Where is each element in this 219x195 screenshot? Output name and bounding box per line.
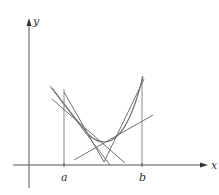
x-axis-arrow-icon [200, 163, 208, 168]
tangent-line-1 [50, 86, 110, 165]
label-a: a [61, 171, 68, 184]
label-b: b [139, 171, 146, 184]
tangent-line-5 [104, 79, 144, 162]
diagram-canvas: y x a b [0, 0, 219, 195]
x-axis-label: x [211, 159, 218, 172]
tangent-line-3 [52, 99, 125, 163]
y-axis-label: y [32, 15, 40, 28]
y-axis-arrow-icon [27, 18, 32, 26]
